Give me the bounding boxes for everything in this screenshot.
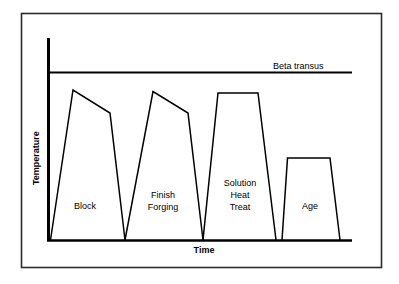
x-axis-title: Time — [194, 245, 215, 255]
y-axis-title: Temperature — [31, 131, 41, 185]
stage-label-block: Block — [74, 201, 97, 211]
stage-label-solution-line2: Heat — [230, 190, 250, 200]
stage-label-solution-line3: Treat — [230, 202, 251, 212]
beta-transus-label: Beta transus — [273, 61, 324, 71]
stage-label-finish-forging-line1: Finish — [151, 190, 175, 200]
stage-label-age: Age — [302, 201, 318, 211]
thermal-cycle-figure: Temperature Time Beta transus Block Fini… — [0, 0, 399, 284]
stage-label-finish-forging-line2: Forging — [148, 202, 179, 212]
process-cycle-chart: Temperature Time Beta transus Block Fini… — [0, 0, 399, 284]
stage-label-solution-line1: Solution — [224, 178, 257, 188]
